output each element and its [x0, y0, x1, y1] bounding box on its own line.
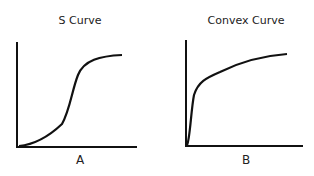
- s-curve-chart: [16, 42, 137, 148]
- convex-curve-line: [187, 54, 287, 145]
- s-curve-line: [19, 55, 122, 146]
- axis-label-a: A: [70, 153, 90, 167]
- axis-label-b: B: [236, 153, 256, 167]
- curves-diagram: [0, 0, 314, 176]
- convex-curve-chart: [185, 40, 303, 147]
